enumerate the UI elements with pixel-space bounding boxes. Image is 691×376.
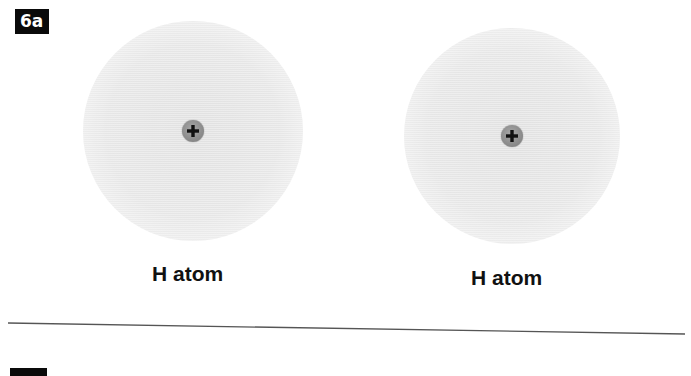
next-panel-label-box xyxy=(10,368,47,376)
